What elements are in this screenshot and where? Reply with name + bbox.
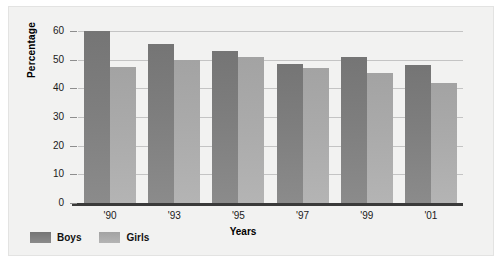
bar-chart-figure: Percentage Years Boys Girls 010203040506… [0,0,502,267]
chart-legend: Boys Girls [30,232,149,243]
girls-swatch-icon [99,232,120,243]
y-axis-tick-label: 50 [24,55,64,65]
x-axis-tick-label: '95 [208,210,268,221]
bar-boys-95 [212,51,238,203]
y-axis-tick [70,146,77,147]
gridline [78,31,463,32]
y-axis-tick [70,174,77,175]
bar-girls-97 [303,68,329,203]
legend-item-girls: Girls [99,232,149,243]
y-axis-tick [70,60,77,61]
bar-boys-99 [341,57,367,203]
legend-label-boys: Boys [57,232,81,243]
bar-girls-93 [174,60,200,203]
bar-boys-01 [405,65,431,203]
legend-label-girls: Girls [126,232,149,243]
bar-girls-01 [431,83,457,203]
y-axis-tick-label: 20 [24,141,64,151]
x-axis-line [72,203,463,206]
x-axis-tick-label: '01 [401,210,461,221]
y-axis-tick-label: 0 [24,198,64,208]
y-axis-tick [70,31,77,32]
y-axis-tick-label: 60 [24,26,64,36]
bar-girls-90 [110,67,136,203]
bar-girls-95 [238,57,264,203]
x-axis-tick-label: '99 [337,210,397,221]
bar-boys-97 [277,64,303,203]
plot-area [78,31,463,203]
bar-girls-99 [367,73,393,203]
y-axis-tick-label: 40 [24,83,64,93]
gridline [78,60,463,61]
x-axis-tick-label: '93 [144,210,204,221]
legend-item-boys: Boys [30,232,81,243]
y-axis-tick-label: 10 [24,169,64,179]
bar-boys-90 [84,31,110,203]
bar-boys-93 [148,44,174,203]
x-axis-tick-label: '90 [80,210,140,221]
y-axis-tick [70,203,77,204]
y-axis-tick-label: 30 [24,112,64,122]
x-axis-tick-label: '97 [273,210,333,221]
y-axis-tick [70,117,77,118]
y-axis-tick [70,88,77,89]
boys-swatch-icon [30,232,51,243]
